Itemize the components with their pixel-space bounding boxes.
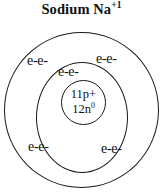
nucleus-proton-label: 11p+ (61, 88, 106, 101)
outer-shell-electrons-bottom-left: e-e- (28, 139, 49, 154)
outer-shell-electrons-bottom-right: e-e- (101, 141, 122, 156)
neutron-count: 12n (72, 102, 91, 116)
outer-shell-electrons-top-right: e-e- (96, 51, 117, 66)
outer-shell-electrons-top-left: e-e- (27, 53, 48, 68)
neutron-charge-superscript: 0 (91, 101, 95, 110)
bohr-model-diagram: Sodium Na+1 11p+ 12n0 e-e- e-e- e-e- e-e… (0, 0, 163, 194)
inner-shell-electrons-top: e-e- (58, 64, 79, 79)
element-name: Sodium (41, 1, 89, 17)
element-symbol: Na (93, 1, 111, 17)
nucleus-neutron-label: 12n0 (61, 103, 106, 116)
page-title: Sodium Na+1 (0, 0, 163, 19)
ion-charge-superscript: +1 (111, 0, 121, 10)
